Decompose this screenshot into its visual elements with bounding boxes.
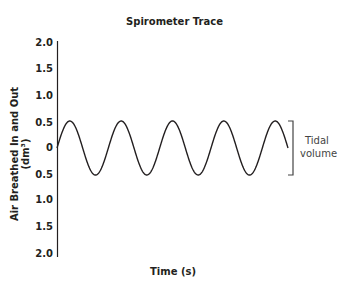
spirometer-trace-line [57,121,288,175]
annotation-line-1: Tidal [300,134,337,147]
annotation-line-2: volume [300,147,337,160]
x-axis-label: Time (s) [150,266,196,277]
plot-area [0,0,349,296]
tidal-volume-annotation: Tidal volume [300,134,337,160]
tidal-volume-bracket [288,121,293,175]
